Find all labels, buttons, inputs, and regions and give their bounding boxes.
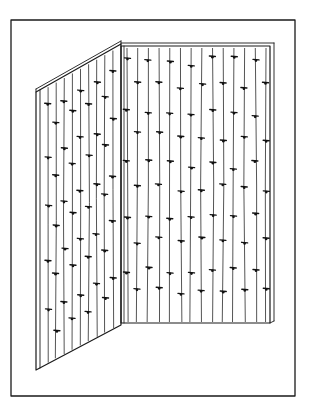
knot-icon (209, 269, 215, 272)
knot-icon (145, 60, 151, 63)
knot-icon (61, 301, 67, 304)
knot-icon (188, 272, 194, 275)
knot-icon (209, 56, 215, 59)
thread-line (64, 78, 65, 354)
thread-line (233, 48, 234, 322)
knot-icon (102, 144, 108, 147)
knot-icon (54, 330, 60, 333)
knot-icon (94, 82, 100, 85)
knot-icon (155, 184, 161, 187)
thread-line (213, 48, 214, 322)
thread-line (127, 48, 128, 322)
knot-icon (242, 242, 248, 245)
knot-icon (263, 140, 269, 143)
knot-icon (134, 243, 140, 246)
knot-icon (177, 88, 183, 91)
knot-icon (62, 248, 68, 251)
knot-icon (61, 201, 67, 204)
knot-icon (178, 191, 184, 194)
illustration-canvas: Line drawing of a two-panel corner scree… (0, 0, 309, 418)
knot-icon (230, 169, 236, 172)
knot-icon (231, 56, 237, 59)
outer-frame (11, 20, 295, 396)
knot-icon (241, 136, 247, 139)
knot-icon (102, 96, 108, 99)
knot-icon (109, 220, 115, 223)
left-panel (36, 41, 121, 370)
knot-icon (135, 82, 141, 85)
knot-icon (157, 132, 163, 135)
knot-icon (231, 112, 237, 115)
knot-icon (167, 273, 173, 276)
knot-icon (61, 148, 67, 151)
knot-icon (178, 293, 184, 296)
knot-icon (124, 58, 130, 61)
knot-icon (102, 250, 108, 253)
knot-icon (85, 311, 91, 314)
knot-icon (262, 82, 268, 85)
knot-icon (198, 137, 204, 140)
knot-icon (178, 136, 184, 139)
knot-icon (210, 215, 216, 218)
knot-icon (253, 269, 259, 272)
knot-icon (110, 277, 116, 280)
knot-icon (220, 140, 226, 143)
knot-icon (93, 233, 99, 236)
knot-icon (86, 103, 92, 106)
right-panel (121, 43, 274, 323)
right-panel-outline (121, 46, 270, 323)
knot-icon (252, 116, 258, 119)
knot-icon (198, 290, 204, 293)
knot-icon (241, 87, 247, 90)
knot-icon (46, 205, 52, 208)
knot-icon (241, 186, 247, 189)
knot-icon (85, 256, 91, 259)
knot-icon (220, 82, 226, 85)
knot-icon (134, 289, 140, 292)
knot-icon (189, 167, 195, 170)
knot-icon (78, 90, 84, 93)
knot-icon (110, 118, 116, 121)
knot-icon (134, 132, 140, 135)
knot-icon (156, 82, 162, 85)
knot-icon (86, 155, 92, 158)
knot-icon (167, 161, 173, 164)
knot-icon (93, 283, 99, 286)
knot-icon (242, 289, 248, 292)
thread-line (147, 48, 148, 322)
thread-line (96, 60, 97, 337)
knot-icon (231, 216, 237, 219)
knot-icon (45, 260, 51, 263)
knot-icon (45, 103, 51, 106)
knot-icon (70, 212, 76, 215)
knot-icon (167, 218, 173, 221)
knot-icon (78, 295, 84, 298)
knot-icon (156, 287, 162, 290)
knot-icon (124, 217, 130, 220)
knot-icon (188, 65, 194, 68)
knot-icon (103, 297, 109, 300)
knot-icon (263, 288, 269, 291)
knot-icon (167, 113, 173, 116)
knot-icon (45, 157, 51, 160)
knot-icon (167, 61, 173, 64)
knot-icon (253, 213, 259, 216)
knot-icon (188, 114, 194, 117)
knot-icon (146, 267, 152, 270)
knot-icon (77, 136, 83, 139)
knot-icon (53, 175, 59, 178)
knot-icon (210, 162, 216, 165)
knot-icon (53, 122, 59, 125)
knot-icon (134, 185, 140, 188)
knot-icon (252, 160, 258, 163)
knot-icon (53, 273, 59, 276)
knot-icon (53, 225, 59, 228)
knot-icon (61, 101, 67, 104)
knot-icon (178, 240, 184, 243)
thread-line (113, 51, 114, 329)
knot-icon (253, 59, 259, 62)
knot-icon (230, 267, 236, 270)
knot-icon (210, 109, 216, 112)
knot-icon (77, 190, 83, 193)
knot-icon (199, 237, 205, 240)
